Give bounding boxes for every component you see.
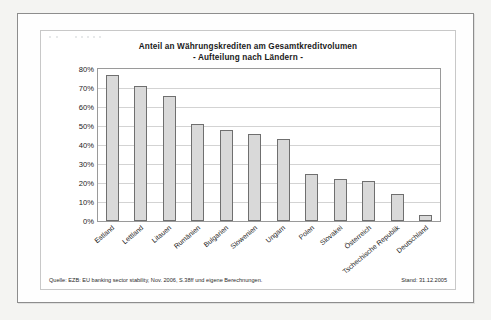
bar-estland[interactable] bbox=[106, 75, 119, 221]
bar-slot bbox=[412, 69, 441, 221]
y-axis-tick-label: 50% bbox=[79, 122, 94, 131]
bar-slot bbox=[355, 69, 384, 221]
y-axis-tick-label: 80% bbox=[79, 65, 94, 74]
bar-lettland[interactable] bbox=[134, 86, 147, 221]
x-axis-tick-label: Estland bbox=[93, 224, 115, 244]
bar--sterreich[interactable] bbox=[362, 181, 375, 221]
x-label-slot: Polen bbox=[297, 221, 326, 283]
x-axis-tick-label: Litauen bbox=[151, 224, 173, 244]
x-label-slot: Deutschland bbox=[411, 221, 440, 283]
x-label-slot: Bulgarien bbox=[211, 221, 240, 283]
bar-slot bbox=[212, 69, 241, 221]
x-axis-tick-label: Ungarn bbox=[265, 224, 287, 244]
bar-slot bbox=[298, 69, 327, 221]
y-axis-tick-label: 40% bbox=[79, 141, 94, 150]
x-label-slot: Tschechische Republik bbox=[382, 221, 411, 283]
x-label-slot: Slowenien bbox=[240, 221, 269, 283]
x-label-slot: Rumänien bbox=[183, 221, 212, 283]
bar-tschechische-republik[interactable] bbox=[391, 194, 404, 221]
y-axis-tick-label: 60% bbox=[79, 103, 94, 112]
x-axis-tick-label: Polen bbox=[297, 224, 315, 241]
bar-polen[interactable] bbox=[305, 174, 318, 222]
bar-ungarn[interactable] bbox=[277, 139, 290, 221]
chart-title-block: Anteil an Währungskrediten am Gesamtkred… bbox=[41, 41, 455, 63]
bar-slowenien[interactable] bbox=[248, 134, 261, 221]
bar-slot bbox=[241, 69, 270, 221]
bar-slot bbox=[98, 69, 127, 221]
bar-slot bbox=[383, 69, 412, 221]
bar-slot bbox=[184, 69, 213, 221]
document-frame: Anteil an Währungskrediten am Gesamtkred… bbox=[17, 13, 474, 303]
chart-subtitle: - Aufteilung nach Ländern - bbox=[41, 52, 455, 63]
plot-area: 80%70%60%50%40%30%20%10%0% bbox=[97, 68, 441, 222]
x-label-slot: Litauen bbox=[154, 221, 183, 283]
bar-slot bbox=[127, 69, 156, 221]
page-title: Anteil an Währungskrediten am Gesamtkred… bbox=[41, 41, 455, 52]
bar-slovakei[interactable] bbox=[334, 179, 347, 221]
bar-slot bbox=[155, 69, 184, 221]
bar-slot bbox=[326, 69, 355, 221]
source-note: Quelle: EZB: EU banking sector stability… bbox=[49, 277, 262, 283]
bar-bulgarien[interactable] bbox=[220, 130, 233, 221]
x-label-slot: Ungarn bbox=[268, 221, 297, 283]
x-axis-labels: EstlandLettlandLitauenRumänienBulgarienS… bbox=[97, 221, 439, 283]
y-axis-tick-label: 70% bbox=[79, 84, 94, 93]
date-note: Stand: 31.12.2005 bbox=[401, 277, 447, 283]
bar-litauen[interactable] bbox=[163, 96, 176, 221]
x-label-slot: Estland bbox=[97, 221, 126, 283]
y-axis-tick-label: 10% bbox=[79, 198, 94, 207]
bar-rum-nien[interactable] bbox=[191, 124, 204, 221]
y-axis-tick-label: 20% bbox=[79, 179, 94, 188]
y-axis-tick-label: 0% bbox=[83, 217, 94, 226]
chart-container: Anteil an Währungskrediten am Gesamtkred… bbox=[40, 30, 456, 290]
bar-series bbox=[98, 69, 440, 221]
x-label-slot: Slovakei bbox=[325, 221, 354, 283]
bar-slot bbox=[269, 69, 298, 221]
x-label-slot: Lettland bbox=[126, 221, 155, 283]
y-axis-tick-label: 30% bbox=[79, 160, 94, 169]
